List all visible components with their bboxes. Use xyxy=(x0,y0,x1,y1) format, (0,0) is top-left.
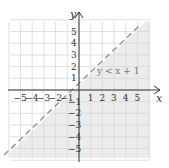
inequality-label: y < x + 1 xyxy=(96,66,139,76)
x-tick-label: 5 xyxy=(135,93,141,103)
x-tick-label: 2 xyxy=(99,93,105,103)
y-tick-label: 3 xyxy=(71,50,77,60)
y-axis-label: y xyxy=(69,8,77,21)
x-tick-label: 4 xyxy=(123,93,129,103)
y-tick-label: −3 xyxy=(68,120,82,130)
x-axis-label: x xyxy=(156,92,163,105)
y-tick-label: −2 xyxy=(68,108,81,118)
y-tick-label: 5 xyxy=(71,27,77,37)
x-tick-label: 1 xyxy=(88,93,94,103)
y-tick-label: −1 xyxy=(68,97,81,107)
y-tick-label: 1 xyxy=(71,73,77,83)
x-tick-label: 3 xyxy=(111,93,117,103)
y-tick-label: 4 xyxy=(71,38,77,48)
inequality-graph: x y −5−4−3−2−112345 54321−1−2−3−4−5 y < … xyxy=(0,0,169,168)
y-tick-label: 2 xyxy=(71,62,77,72)
y-tick-label: −5 xyxy=(68,144,82,154)
y-tick-label: −4 xyxy=(68,132,82,142)
